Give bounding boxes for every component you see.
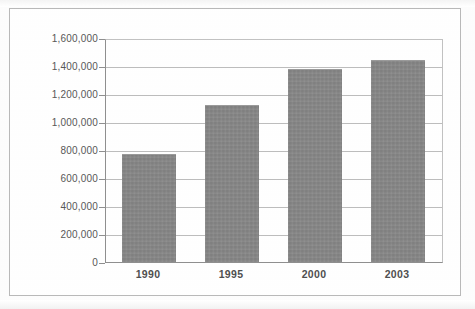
y-axis-tick-label: 0 xyxy=(8,258,98,268)
bar-2000[interactable] xyxy=(288,69,342,262)
bar-2003[interactable] xyxy=(371,60,425,262)
y-axis-tick-label: 1,400,000 xyxy=(8,62,98,72)
x-axis-label-2000: 2000 xyxy=(272,268,356,280)
y-axis-tick-label: 200,000 xyxy=(8,230,98,240)
x-axis-label-1990: 1990 xyxy=(106,268,190,280)
x-axis-category-labels: 1990 1995 2000 2003 xyxy=(105,268,443,288)
y-axis-tick-label: 800,000 xyxy=(8,146,98,156)
bar-chart-figure: 1,600,000 1,400,000 1,200,000 1,000,000 … xyxy=(0,0,475,309)
y-axis-tick-label: 1,600,000 xyxy=(8,34,98,44)
bar-1990[interactable] xyxy=(122,154,176,262)
y-axis-tick-labels: 1,600,000 1,400,000 1,200,000 1,000,000 … xyxy=(0,0,98,309)
y-axis-tick-label: 1,200,000 xyxy=(8,90,98,100)
y-axis-tick-label: 1,000,000 xyxy=(8,118,98,128)
y-axis-tick-mark xyxy=(99,263,105,264)
plot-area xyxy=(105,39,443,263)
x-axis-label-1995: 1995 xyxy=(189,268,273,280)
bar-1995[interactable] xyxy=(205,105,259,263)
y-axis-tick-label: 600,000 xyxy=(8,174,98,184)
x-axis-label-2003: 2003 xyxy=(355,268,439,280)
y-axis-tick-label: 400,000 xyxy=(8,202,98,212)
